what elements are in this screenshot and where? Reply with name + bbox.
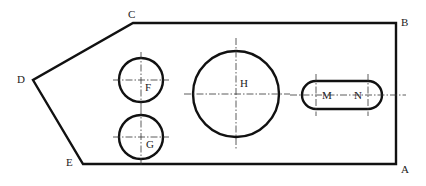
plate-outline	[33, 23, 396, 164]
label-h: H	[240, 77, 248, 89]
label-a: A	[401, 163, 409, 175]
label-m: M	[322, 89, 332, 101]
technical-drawing: F G H M N A B C D E	[0, 0, 426, 186]
label-f: F	[145, 81, 151, 93]
label-e: E	[66, 156, 73, 168]
slot-mn: M N	[290, 74, 406, 116]
hole-g: G	[113, 108, 169, 166]
label-d: D	[17, 73, 25, 85]
label-b: B	[401, 16, 408, 28]
label-n: N	[354, 89, 362, 101]
hole-f: F	[113, 52, 169, 108]
label-c: C	[128, 8, 135, 20]
label-g: G	[146, 138, 154, 150]
hole-h: H	[184, 38, 290, 150]
